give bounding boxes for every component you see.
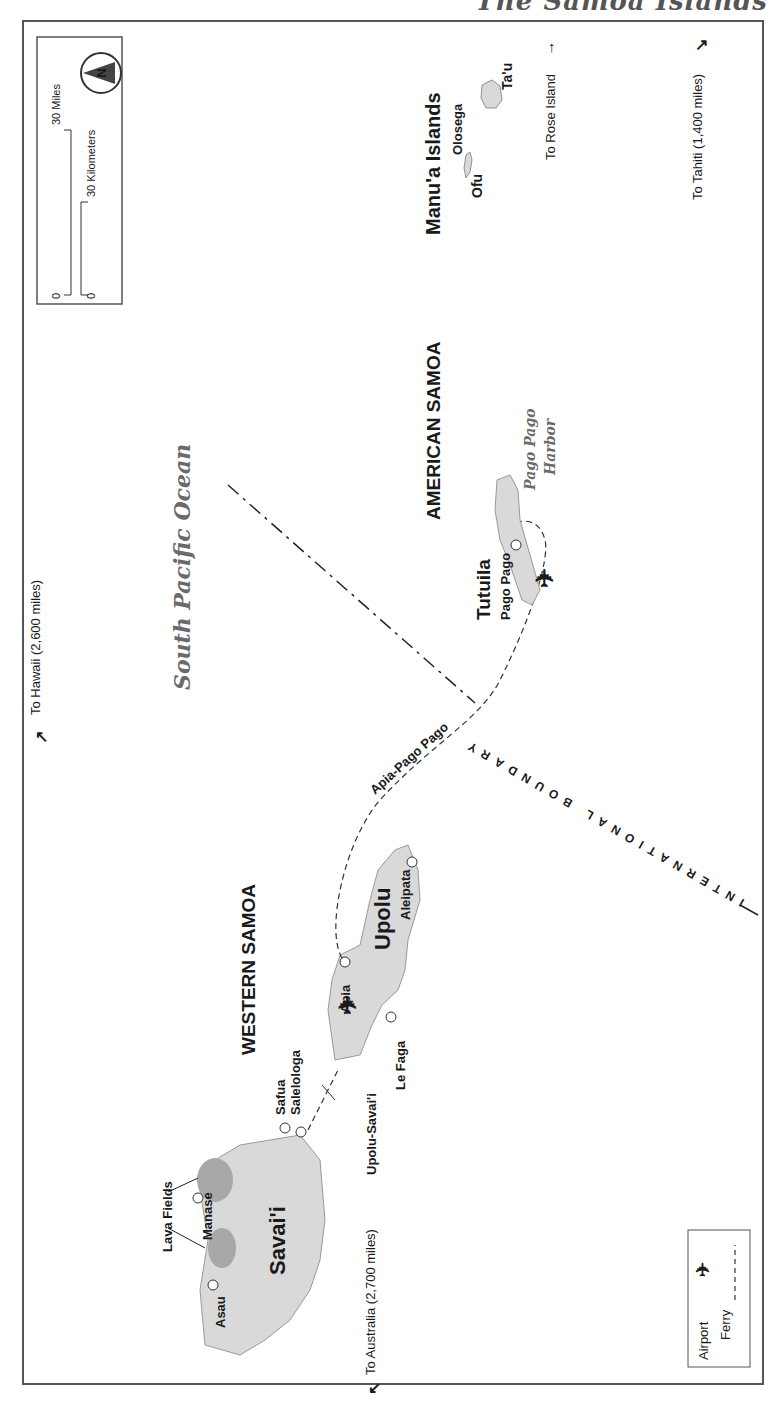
manua-islands-label: Manu'a Islands bbox=[422, 92, 444, 235]
arrow-icon: ↗ bbox=[695, 36, 708, 53]
airport-icon: ✈ bbox=[693, 1262, 713, 1277]
direction-tahiti: To Tahiti (1,400 miles) ↗ bbox=[690, 36, 708, 200]
legend-ferry-label: Ferry bbox=[718, 1309, 733, 1340]
svg-text:Tutuila: Tutuila bbox=[473, 559, 494, 620]
boundary-label: INTERNATIONAL BOUNDARY bbox=[460, 736, 747, 910]
town-manase: Manase bbox=[193, 1192, 215, 1240]
svg-text:Pago Pago: Pago Pago bbox=[498, 553, 513, 620]
scale-miles-label: 30 Miles bbox=[50, 84, 62, 125]
region-western-samoa: WESTERN SAMOA bbox=[238, 884, 259, 1055]
svg-text:Harbor: Harbor bbox=[542, 417, 558, 476]
svg-text:To Rose Island: To Rose Island bbox=[543, 74, 558, 160]
svg-text:Apia: Apia bbox=[338, 984, 353, 1013]
compass-label: N bbox=[94, 68, 109, 77]
svg-text:Pago Pago: Pago Pago bbox=[522, 408, 538, 491]
svg-text:Le Faga: Le Faga bbox=[393, 1040, 408, 1090]
direction-australia: To Australia (2,700 miles) ↙ bbox=[363, 1229, 381, 1396]
scale-km-zero: 0 bbox=[85, 293, 97, 299]
north-compass-icon: N bbox=[81, 53, 121, 93]
island-tau: Ta'u bbox=[481, 63, 515, 108]
airport-tutuila-icon: ✈ bbox=[531, 568, 558, 588]
svg-text:Ta'u: Ta'u bbox=[499, 63, 515, 90]
region-american-samoa: AMERICAN SAMOA bbox=[423, 341, 444, 520]
legend-airport-label: Airport bbox=[696, 1321, 711, 1360]
arrow-icon: ↑ bbox=[548, 38, 556, 55]
svg-text:To Tahiti (1,400 miles): To Tahiti (1,400 miles) bbox=[690, 74, 705, 200]
svg-text:Asau: Asau bbox=[213, 1296, 228, 1328]
svg-text:Aleipata: Aleipata bbox=[398, 869, 413, 920]
svg-text:Olosega: Olosega bbox=[450, 103, 465, 155]
svg-text:To Australia (2,700 miles): To Australia (2,700 miles) bbox=[363, 1229, 378, 1375]
pago-pago-harbor-label: Pago Pago Harbor bbox=[522, 408, 558, 491]
ferry-route-upolu-savaii bbox=[308, 1070, 338, 1130]
samoa-map: N 30 Miles 0 30 Kilometers 0 To Hawaii (… bbox=[0, 0, 778, 1407]
town-le-faga: Le Faga bbox=[386, 1012, 408, 1090]
legend: Airport ✈ Ferry bbox=[688, 1230, 750, 1367]
svg-text:✈: ✈ bbox=[531, 568, 558, 588]
svg-text:Upolu: Upolu bbox=[370, 888, 395, 950]
svg-text:Savai'i: Savai'i bbox=[265, 1206, 290, 1275]
direction-rose-island: To Rose Island ↑ bbox=[543, 38, 558, 160]
svg-text:Lava Fields: Lava Fields bbox=[160, 1181, 175, 1252]
svg-text:Salelologa: Salelologa bbox=[288, 1049, 303, 1115]
direction-hawaii: To Hawaii (2,600 miles) ↖ bbox=[28, 580, 48, 745]
island-olosega-ofu: Olosega Ofu bbox=[450, 103, 485, 198]
svg-text:Ofu: Ofu bbox=[469, 174, 485, 198]
town-salelologa: Salelologa bbox=[288, 1049, 306, 1137]
route-label-upolu-savaii: Upolu-Savai'i bbox=[364, 1093, 379, 1175]
arrow-icon: ↙ bbox=[368, 1379, 381, 1396]
scale-box: N 30 Miles 0 30 Kilometers 0 bbox=[37, 37, 122, 304]
route-label-apia-pago-pago: Apia-Pago Pago bbox=[367, 719, 451, 797]
lava-fields-label: Lava Fields bbox=[160, 1178, 205, 1252]
scale-miles-zero: 0 bbox=[50, 293, 62, 299]
scale-km-label: 30 Kilometers bbox=[85, 129, 97, 197]
svg-text:To Hawaii (2,600 miles): To Hawaii (2,600 miles) bbox=[28, 580, 43, 715]
svg-text:Manase: Manase bbox=[200, 1192, 215, 1240]
ocean-label: South Pacific Ocean bbox=[169, 444, 195, 690]
arrow-icon: ↖ bbox=[35, 728, 48, 745]
svg-text:Safua: Safua bbox=[273, 1079, 288, 1115]
